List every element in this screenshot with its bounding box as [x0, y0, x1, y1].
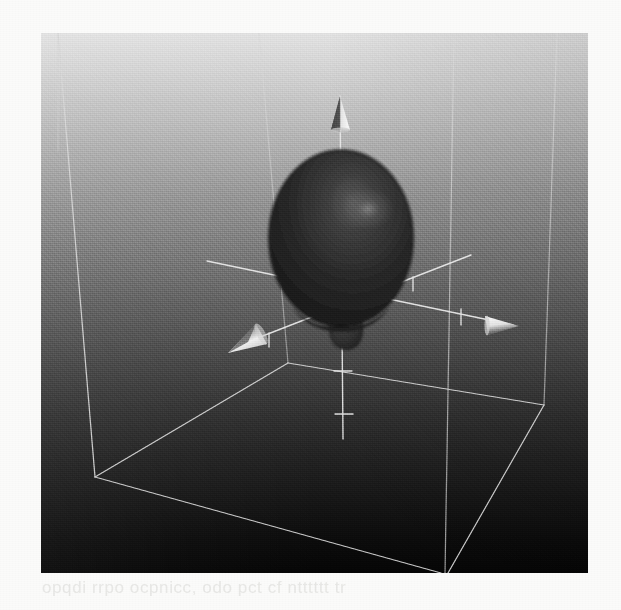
orbital-render-svg [41, 33, 588, 573]
major-lobe [269, 150, 413, 332]
box-edge-front-left [58, 33, 95, 477]
box-floor-edge-back-right [288, 363, 544, 405]
x-axis-arrowhead-icon [484, 316, 519, 336]
box-floor-edge-left-back [95, 363, 288, 477]
box-floor-edge-right-front [448, 405, 544, 573]
box-edge-back-right [445, 33, 454, 573]
ghost-bleedthrough-text: opqdi rrpo ocpnicc, odo pct cf ntttttt t… [42, 578, 582, 600]
z-axis-arrowhead-icon [331, 96, 350, 132]
box-edge-far-right [544, 33, 557, 405]
scanned-page: opqdi rrpo ocpnicc, odo pct cf ntttttt t… [0, 0, 621, 610]
figure-viewport [41, 33, 588, 573]
box-floor-edge-left-front [95, 477, 441, 573]
y-axis-arrowhead-icon [228, 322, 270, 353]
